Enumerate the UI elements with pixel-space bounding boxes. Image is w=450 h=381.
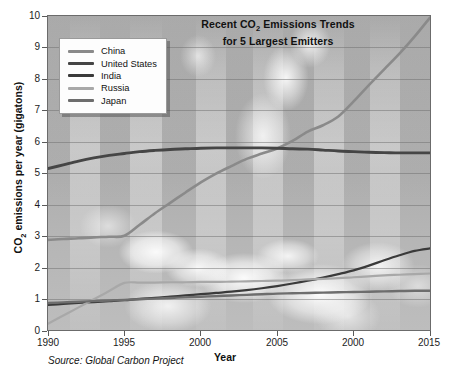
source-caption: Source: Global Carbon Project <box>48 355 184 366</box>
x-tick <box>200 331 201 336</box>
x-tick-label: 2000 <box>331 337 375 348</box>
y-tick-label: 1 <box>20 294 40 304</box>
x-tick <box>430 331 431 336</box>
y-tick <box>42 47 47 48</box>
y-tick <box>42 236 47 237</box>
y-tick <box>42 110 47 111</box>
x-tick <box>124 331 125 336</box>
legend-item-japan[interactable]: Japan <box>68 95 159 107</box>
y-tick <box>42 331 47 332</box>
legend-label: China <box>101 46 125 56</box>
x-tick <box>277 331 278 336</box>
legend-swatch-icon <box>68 99 94 102</box>
legend-item-united-states[interactable]: United States <box>68 57 159 69</box>
y-tick <box>42 173 47 174</box>
legend-swatch-icon <box>68 74 94 77</box>
legend: China United States India Russia Japan <box>59 38 167 114</box>
chart-title: Recent CO2 Emissions Trends for 5 Larges… <box>168 18 388 48</box>
x-tick-label: 1990 <box>26 337 70 348</box>
y-tick <box>42 205 47 206</box>
legend-swatch-icon <box>68 87 94 90</box>
y-axis-title-pre: CO <box>12 238 24 254</box>
x-tick <box>48 331 49 336</box>
legend-swatch-icon <box>68 50 94 53</box>
chart-title-line2: for 5 Largest Emitters <box>223 35 334 47</box>
y-tick-label: 0 <box>20 326 40 336</box>
legend-label: United States <box>101 59 157 69</box>
x-tick-label: 2000 <box>178 337 222 348</box>
y-tick <box>42 79 47 80</box>
x-tick <box>353 331 354 336</box>
x-tick-label: 1995 <box>102 337 146 348</box>
legend-item-china[interactable]: China <box>68 45 159 57</box>
y-axis-title-post: emissions per year (gigatons) <box>12 82 24 234</box>
x-tick-label: 2015 <box>407 337 450 348</box>
y-tick <box>42 16 47 17</box>
x-axis-title-text: Year <box>214 351 236 363</box>
chart-title-line1-pre: Recent CO <box>201 18 256 30</box>
y-tick <box>42 268 47 269</box>
y-axis-title-sub: 2 <box>19 233 28 237</box>
y-tick <box>42 299 47 300</box>
x-tick-label: 2005 <box>255 337 299 348</box>
legend-item-russia[interactable]: Russia <box>68 82 159 94</box>
y-tick-label: 10 <box>20 11 40 21</box>
legend-label: India <box>101 71 121 81</box>
y-axis-title: CO2 emissions per year (gigatons) <box>12 53 27 283</box>
series-line-united-states <box>48 148 430 169</box>
legend-item-india[interactable]: India <box>68 70 159 82</box>
legend-label: Russia <box>101 83 129 93</box>
chart-figure: 0 1 2 3 4 5 6 7 8 9 10 1990 1995 2000 20… <box>0 0 450 381</box>
series-line-russia <box>48 273 430 323</box>
y-tick <box>42 142 47 143</box>
chart-title-line1-rest: Emissions Trends <box>260 18 354 30</box>
legend-label: Japan <box>101 96 126 106</box>
legend-swatch-icon <box>68 62 94 66</box>
y-tick-label: 9 <box>20 42 40 52</box>
